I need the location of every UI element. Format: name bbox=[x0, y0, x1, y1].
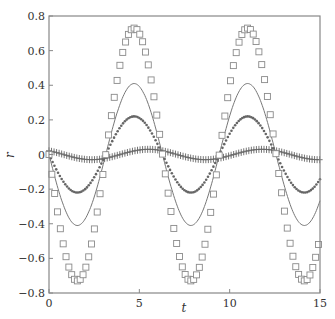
dot-marker bbox=[286, 176, 289, 179]
square-marker bbox=[165, 190, 171, 196]
dot-marker bbox=[100, 162, 103, 165]
square-marker bbox=[145, 62, 151, 68]
square-marker bbox=[86, 254, 92, 260]
square-marker bbox=[228, 78, 234, 84]
square-marker bbox=[162, 171, 168, 177]
dot-marker bbox=[221, 147, 224, 150]
series-layer bbox=[46, 25, 323, 284]
square-marker bbox=[219, 132, 225, 138]
square-marker bbox=[287, 240, 293, 246]
dot-marker bbox=[64, 183, 67, 186]
square-marker bbox=[140, 39, 146, 45]
square-marker bbox=[179, 264, 185, 270]
dot-marker bbox=[261, 127, 264, 130]
square-marker bbox=[284, 225, 290, 231]
dot-marker bbox=[91, 179, 94, 182]
square-marker bbox=[108, 113, 114, 119]
dot-marker bbox=[111, 140, 114, 143]
square-marker bbox=[290, 253, 296, 259]
axes-layer: −0.8−0.6−0.4−0.200.20.40.60.8051015 bbox=[18, 10, 327, 310]
dot-marker bbox=[263, 130, 266, 133]
square-marker bbox=[205, 226, 211, 232]
square-marker bbox=[111, 94, 117, 100]
dot-marker bbox=[236, 122, 239, 125]
dot-marker bbox=[257, 122, 260, 125]
square-marker bbox=[159, 151, 165, 157]
dot-marker bbox=[62, 181, 65, 184]
dot-marker bbox=[212, 165, 215, 168]
dot-marker bbox=[201, 184, 204, 187]
dot-marker bbox=[147, 126, 150, 129]
y-tick-label: 0.6 bbox=[28, 45, 46, 58]
dot-marker bbox=[234, 124, 237, 127]
dot-marker bbox=[277, 158, 280, 161]
dot-marker bbox=[284, 173, 287, 176]
dot-marker bbox=[149, 129, 152, 132]
y-tick-label: −0.6 bbox=[18, 252, 45, 265]
plus-series bbox=[46, 146, 323, 163]
dot-marker bbox=[317, 181, 320, 184]
dot-marker bbox=[232, 127, 235, 130]
dot-marker bbox=[95, 173, 98, 176]
dot-marker bbox=[96, 169, 99, 172]
dot-marker bbox=[205, 178, 208, 181]
dot-marker bbox=[156, 143, 159, 146]
square-marker bbox=[211, 191, 217, 197]
dot-marker bbox=[207, 175, 210, 178]
dot-marker bbox=[151, 132, 154, 135]
square-marker bbox=[313, 254, 319, 260]
square-marker bbox=[267, 112, 273, 118]
dot-marker bbox=[288, 179, 291, 182]
dot-marker bbox=[199, 186, 202, 189]
squares-series bbox=[46, 25, 321, 284]
square-marker bbox=[89, 241, 95, 247]
dot-marker bbox=[60, 178, 63, 181]
square-marker bbox=[281, 208, 287, 214]
dot-marker bbox=[51, 161, 54, 164]
dot-marker bbox=[86, 186, 89, 189]
dot-marker bbox=[115, 133, 118, 136]
dot-marker bbox=[143, 122, 146, 125]
square-marker bbox=[222, 113, 228, 119]
square-marker bbox=[230, 63, 236, 69]
square-marker bbox=[310, 265, 316, 271]
dot-marker bbox=[66, 185, 69, 188]
y-axis-label: r bbox=[3, 151, 17, 158]
dot-marker bbox=[176, 181, 179, 184]
dot-marker bbox=[57, 171, 60, 174]
square-marker bbox=[193, 272, 199, 278]
chart: −0.8−0.6−0.4−0.200.20.40.60.8051015 t r bbox=[0, 0, 335, 319]
x-tick-label: 10 bbox=[223, 297, 237, 310]
x-tick-label: 5 bbox=[136, 297, 143, 310]
dot-marker bbox=[172, 175, 175, 178]
square-marker bbox=[83, 264, 89, 270]
dot-marker bbox=[313, 185, 316, 188]
dot-marker bbox=[87, 184, 90, 187]
square-marker bbox=[307, 272, 313, 278]
square-marker bbox=[253, 39, 259, 45]
y-tick-label: 0.4 bbox=[28, 79, 46, 92]
square-marker bbox=[49, 171, 55, 177]
square-marker bbox=[171, 225, 177, 231]
y-tick-label: 0 bbox=[38, 149, 45, 162]
square-marker bbox=[259, 62, 265, 68]
square-marker bbox=[202, 241, 208, 247]
dot-marker bbox=[55, 168, 58, 171]
square-marker bbox=[57, 226, 63, 232]
dot-marker bbox=[174, 178, 177, 181]
dot-marker bbox=[169, 169, 172, 172]
dot-marker bbox=[311, 187, 314, 190]
square-marker bbox=[216, 152, 222, 158]
y-tick-label: 0.2 bbox=[28, 114, 46, 127]
square-marker bbox=[154, 112, 160, 118]
dot-marker bbox=[292, 184, 295, 187]
square-marker bbox=[120, 49, 126, 55]
square-marker bbox=[270, 131, 276, 137]
square-marker bbox=[233, 50, 239, 56]
dot-marker bbox=[109, 143, 112, 146]
dot-marker bbox=[107, 147, 110, 150]
square-marker bbox=[148, 77, 154, 83]
dot-marker bbox=[223, 143, 226, 146]
dot-marker bbox=[283, 169, 286, 172]
square-marker bbox=[103, 152, 109, 158]
